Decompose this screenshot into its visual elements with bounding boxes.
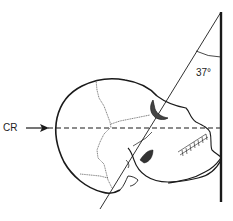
angle-arc bbox=[196, 51, 221, 57]
skull-base-outline bbox=[120, 176, 138, 190]
mandible-outline bbox=[168, 160, 221, 183]
skull-cranium-outline bbox=[56, 79, 157, 193]
squamosal-suture bbox=[111, 115, 150, 124]
angle-label: 37° bbox=[196, 67, 211, 78]
central-ray-label: CR bbox=[3, 122, 17, 133]
coronal-suture bbox=[96, 80, 111, 128]
zygomatic-dark-shape bbox=[140, 150, 153, 163]
oblique-reference-line bbox=[100, 12, 221, 209]
teeth-row bbox=[178, 134, 208, 156]
lambdoid-suture bbox=[97, 128, 112, 188]
skull-positioning-diagram bbox=[0, 0, 233, 221]
occipitomastoid-suture bbox=[80, 174, 108, 178]
